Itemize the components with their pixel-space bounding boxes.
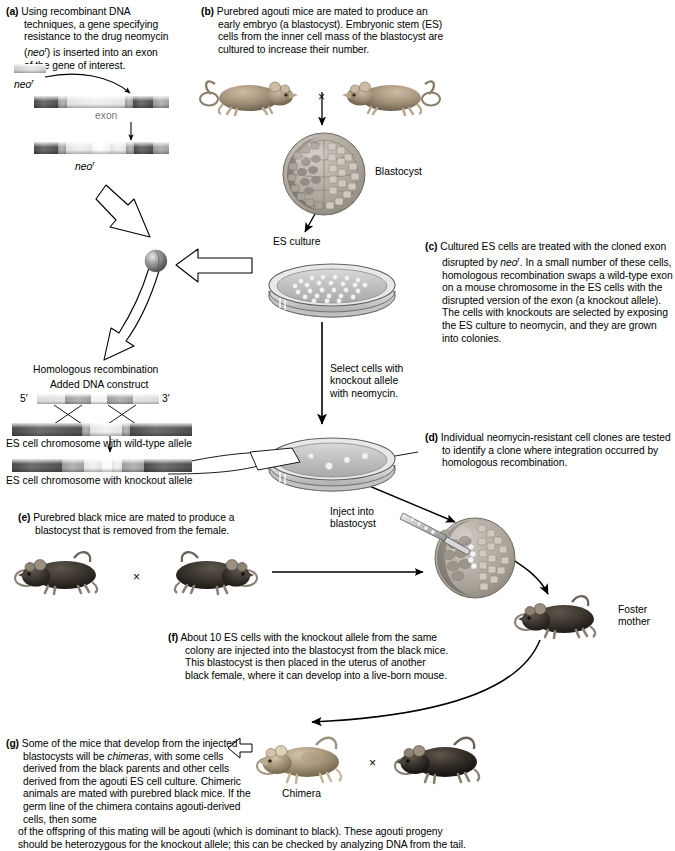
panel-a-label: (a)	[6, 6, 18, 17]
inject-line-2: blastocyst	[330, 518, 376, 529]
panel-g-line-1: Some of the mice that develop from the	[22, 738, 200, 749]
panel-a-line-2: techniques, a gene specifying	[24, 19, 158, 30]
neo-inserted-label: neor	[75, 158, 95, 174]
panel-b-caption: (b) Purebred agouti mice are mated to pr…	[201, 6, 445, 56]
es-chromosome-wildtype-bar	[12, 423, 192, 436]
panel-g-wide-line-2: should be heterozygous for the knockout …	[18, 839, 466, 850]
blastocyst-label: Blastocyst	[375, 166, 422, 178]
agouti-mouse-right	[339, 74, 443, 116]
cross-symbol-b: ×	[318, 90, 325, 104]
panel-d-line-1: Individual neomycin-resistant	[441, 432, 572, 443]
panel-b-line-1: Purebred agouti mice are mated to produc…	[217, 6, 414, 17]
panel-g-wide-line-1: of the offspring of this mating will be …	[18, 826, 443, 837]
es-chromosome-knockout-bar	[12, 459, 192, 472]
petri-dish-colonies	[265, 432, 400, 498]
es-chromosome-knockout-label: ES cell chromosome with knockout allele	[6, 475, 193, 487]
blastocyst-illustration	[282, 132, 366, 220]
neo-cassette-label: neor	[14, 76, 34, 92]
panel-e-line-1: Purebred black mice are mated to produce	[33, 512, 226, 523]
panel-f-caption: (f) About 10 ES cells with the knockout …	[168, 632, 450, 682]
panel-a-line-4: (neor) is inserted into an exon	[24, 47, 158, 58]
select-cells-line-3: with neomycin.	[330, 388, 398, 399]
es-culture-label: ES culture	[273, 236, 321, 248]
black-mouse-g	[390, 733, 500, 785]
select-cells-line-1: Select cells with	[330, 363, 403, 374]
panel-c-line-1: Cultured ES cells are treated with the c…	[440, 241, 641, 252]
select-cells-label: Select cells with knockout allele with n…	[330, 363, 403, 400]
gene-bar-disrupted	[34, 142, 169, 154]
chimera-label: Chimera	[282, 788, 321, 800]
panel-f-label: (f)	[168, 632, 178, 643]
three-prime-label: 3′	[162, 393, 170, 405]
panel-a-caption: (a) Using recombinant DNA techniques, a …	[6, 6, 191, 72]
foster-mother-mouse	[512, 592, 618, 640]
neo-cassette-bar	[14, 64, 46, 73]
added-dna-construct-title: Added DNA construct	[50, 379, 148, 391]
panel-a-line-3: resistance to the drug neomycin	[24, 31, 168, 42]
panel-f-line-5: develop into a live-born mouse.	[306, 670, 448, 681]
black-mouse-left	[12, 548, 120, 596]
inject-line-1: Inject into	[330, 506, 374, 517]
injected-blastocyst-illustration	[428, 512, 518, 606]
five-prime-label: 5′	[20, 393, 28, 405]
panel-e-label: (e)	[18, 512, 30, 523]
panel-c-line-9: colonies.	[461, 333, 501, 344]
panel-g-wide-text: of the offspring of this mating will be …	[18, 826, 675, 851]
foster-mother-label: Foster mother	[618, 604, 650, 629]
gene-bar-wildtype	[34, 96, 169, 108]
foster-line-2: mother	[618, 616, 650, 627]
panel-b-label: (b)	[201, 6, 214, 17]
petri-dish-es-culture	[265, 258, 400, 324]
panel-c-label: (c)	[425, 241, 437, 252]
foster-line-1: Foster	[618, 604, 647, 615]
cross-symbol-g: ×	[369, 756, 376, 770]
exon-label: exon	[95, 110, 117, 122]
panel-g-label: (g)	[6, 738, 19, 749]
panel-g-caption: (g) Some of the mice that develop from t…	[6, 738, 254, 826]
es-chromosome-wildtype-label: ES cell chromosome with wild-type allele	[6, 438, 192, 450]
cross-symbol-e: ×	[133, 570, 140, 584]
black-mouse-right	[152, 548, 260, 596]
select-cells-line-2: knockout allele	[330, 375, 398, 386]
homologous-recombination-title: Homologous recombination	[33, 364, 158, 376]
panel-a-line-1: Using recombinant DNA	[21, 6, 130, 17]
chimera-mouse	[252, 733, 362, 785]
panel-c-caption: (c) Cultured ES cells are treated with t…	[425, 241, 673, 345]
panel-f-line-1: About 10 ES cells with the knockout alle…	[180, 632, 392, 643]
panel-b-line-5: number.	[332, 44, 369, 55]
panel-d-label: (d)	[425, 432, 438, 443]
inject-into-blastocyst-label: Inject into blastocyst	[330, 506, 376, 531]
panel-d-caption: (d) Individual neomycin-resistant cell c…	[425, 432, 673, 470]
agouti-mouse-left	[197, 74, 301, 116]
panel-d-line-3: clone where integration occurred	[497, 445, 645, 456]
added-dna-construct-bar	[37, 394, 159, 404]
panel-e-caption: (e) Purebred black mice are mated to pro…	[18, 512, 268, 537]
